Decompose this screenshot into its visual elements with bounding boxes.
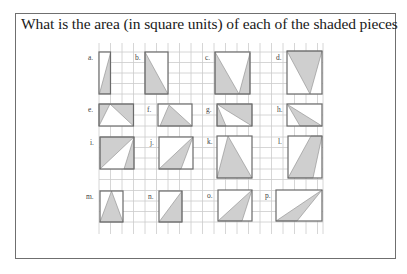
label-n: n. bbox=[148, 192, 154, 201]
shaded-pieces-grid: a. b. c. d. e. f. g. h. i. j. k. l. m. n… bbox=[0, 0, 407, 274]
label-a: a. bbox=[88, 53, 93, 62]
label-i: i. bbox=[90, 138, 94, 147]
label-c: c. bbox=[205, 53, 210, 62]
label-f: f. bbox=[147, 105, 151, 114]
label-j: j. bbox=[149, 138, 154, 147]
label-e: e. bbox=[88, 105, 93, 114]
label-p: p. bbox=[265, 191, 271, 200]
label-g: g. bbox=[206, 105, 212, 114]
label-b: b. bbox=[135, 53, 141, 62]
label-d: d. bbox=[276, 53, 282, 62]
label-m: m. bbox=[86, 192, 94, 201]
label-k: k. bbox=[207, 137, 213, 146]
label-h: h. bbox=[277, 105, 283, 114]
figure-labels: a. b. c. d. e. f. g. h. i. j. k. l. m. n… bbox=[86, 53, 283, 201]
label-o: o. bbox=[207, 191, 213, 200]
label-l: l. bbox=[278, 137, 282, 146]
